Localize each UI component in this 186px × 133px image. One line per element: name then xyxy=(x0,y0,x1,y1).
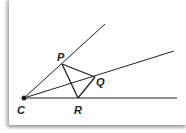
ray-cq xyxy=(24,51,174,98)
label-q: Q xyxy=(96,76,105,88)
label-p: P xyxy=(57,51,65,63)
label-r: R xyxy=(74,104,82,116)
vertex-c-dot xyxy=(22,96,27,101)
ray-cp xyxy=(24,24,105,98)
label-c: C xyxy=(17,104,26,116)
angle-diagram: P Q R C xyxy=(0,0,186,133)
